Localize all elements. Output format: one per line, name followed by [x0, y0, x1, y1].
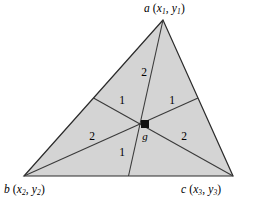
comma-a: , [166, 2, 172, 14]
vertex-label-a: a (x1, y1) [144, 2, 185, 16]
coord-x-c: x3 [193, 183, 202, 195]
region-label-bottom: 1 [115, 146, 129, 158]
paren-open-a: ( [150, 2, 157, 14]
coord-y-c: y3 [208, 183, 217, 195]
vertex-label-b: b (x2, y2) [4, 183, 45, 197]
region-label-top: 2 [137, 66, 151, 78]
centroid-marker [141, 120, 149, 128]
paren-close-b: ) [41, 183, 45, 195]
centroid-label: g [139, 130, 151, 142]
centroid-triangle-diagram [0, 0, 258, 204]
coord-x-a: x1 [157, 2, 166, 14]
vertex-label-c: c (x3, y3) [181, 183, 221, 197]
paren-open-b: ( [10, 183, 17, 195]
coord-y-a: y1 [172, 2, 181, 14]
coord-y-b: y2 [32, 183, 41, 195]
region-label-left: 2 [85, 130, 99, 142]
region-label-upper-left: 1 [115, 94, 129, 106]
region-label-upper-right: 1 [165, 94, 179, 106]
paren-close-c: ) [217, 183, 221, 195]
comma-b: , [26, 183, 32, 195]
region-label-right: 2 [177, 130, 191, 142]
paren-close-a: ) [181, 2, 185, 14]
coord-x-b: x2 [17, 183, 26, 195]
